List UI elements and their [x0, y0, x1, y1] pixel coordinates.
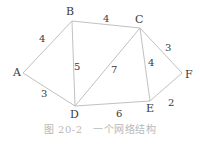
edge-weight-b-d: 5 [74, 61, 80, 72]
edge-weight-a-b: 4 [39, 33, 45, 44]
edge-weight-c-f: 3 [165, 42, 171, 53]
edge-weight-d-e: 6 [116, 108, 122, 119]
edge-e-f [150, 73, 182, 101]
node-c: C [135, 13, 143, 26]
edge-d-e [75, 101, 150, 106]
node-b: B [66, 5, 74, 18]
edge-c-d [75, 28, 140, 106]
network-diagram: 434574362 ABCDEF 图 20-2 一个网络结构 [0, 0, 200, 145]
edge-weight-c-d: 7 [111, 64, 117, 75]
figure-caption: 图 20-2 一个网络结构 [0, 121, 200, 136]
edge-weight-e-f: 2 [168, 97, 174, 108]
edge-c-f [140, 28, 182, 73]
node-d: D [70, 108, 79, 121]
edge-weights-layer: 434574362 [39, 13, 174, 119]
node-a: A [12, 66, 22, 79]
node-e: E [146, 102, 154, 115]
edge-a-d [23, 73, 75, 106]
edge-a-b [23, 21, 72, 73]
edge-weight-c-e: 4 [148, 57, 154, 68]
node-f: F [185, 68, 193, 81]
edge-weight-b-c: 4 [103, 13, 109, 24]
edge-weight-a-d: 3 [41, 88, 47, 99]
